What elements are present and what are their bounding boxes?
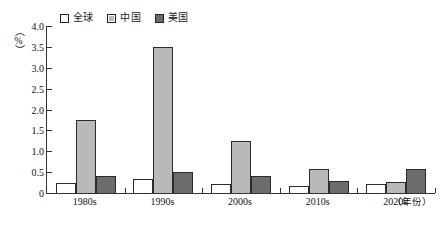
bar-2020s-美国 bbox=[406, 169, 426, 193]
x-tick bbox=[202, 188, 203, 193]
bar-2010s-全球 bbox=[289, 186, 309, 194]
y-tick-label: 3.0 bbox=[32, 63, 45, 74]
bar-group-2010s bbox=[280, 26, 358, 193]
bar-1980s-中国 bbox=[76, 120, 96, 193]
y-tick-label: 0 bbox=[39, 188, 44, 199]
x-tick bbox=[280, 188, 281, 193]
bar-chart: 全球 中国 美国 （%） 4.03.53.02.52.01.51.00.50 1… bbox=[0, 0, 446, 228]
x-axis-label-1990s: 1990s bbox=[124, 196, 202, 210]
legend-label-global: 全球 bbox=[73, 13, 93, 23]
x-axis-labels: 1980s1990s2000s2010s2020s bbox=[46, 196, 434, 210]
legend-entry-global: 全球 bbox=[60, 13, 93, 23]
bar-group-2000s bbox=[202, 26, 280, 193]
bar-2000s-全球 bbox=[211, 184, 231, 193]
legend-swatch-usa bbox=[155, 14, 164, 23]
bar-group-1980s bbox=[47, 26, 125, 193]
y-tick-label: 2.5 bbox=[32, 84, 45, 95]
legend-swatch-global bbox=[60, 14, 69, 23]
y-tick-label: 2.0 bbox=[32, 105, 45, 116]
bar-1990s-美国 bbox=[173, 172, 193, 193]
bar-1980s-全球 bbox=[56, 183, 76, 193]
y-tick-label: 0.5 bbox=[32, 167, 45, 178]
chart-legend: 全球 中国 美国 bbox=[60, 11, 188, 25]
bar-2020s-中国 bbox=[386, 182, 406, 193]
bar-2010s-美国 bbox=[329, 181, 349, 193]
y-tick-label: 1.0 bbox=[32, 146, 45, 157]
bar-2010s-中国 bbox=[309, 169, 329, 193]
bar-groups bbox=[47, 26, 435, 193]
x-axis-label-1980s: 1980s bbox=[46, 196, 124, 210]
bar-1990s-中国 bbox=[153, 47, 173, 193]
legend-label-usa: 美国 bbox=[168, 13, 188, 23]
y-tick-label: 3.5 bbox=[32, 42, 45, 53]
x-tick bbox=[357, 188, 358, 193]
bar-2000s-美国 bbox=[251, 176, 271, 193]
y-tick: 0 bbox=[47, 193, 52, 194]
legend-label-china: 中国 bbox=[120, 13, 140, 23]
legend-entry-china: 中国 bbox=[107, 13, 140, 23]
y-tick-label: 4.0 bbox=[32, 21, 45, 32]
x-tick bbox=[125, 188, 126, 193]
legend-swatch-china bbox=[107, 14, 116, 23]
x-tick bbox=[435, 188, 436, 193]
x-axis-title: （年份） bbox=[392, 196, 432, 208]
bar-2020s-全球 bbox=[366, 184, 386, 193]
bar-group-2020s bbox=[357, 26, 435, 193]
plot-area: 4.03.53.02.52.01.51.00.50 bbox=[46, 26, 435, 194]
x-axis-label-2010s: 2010s bbox=[279, 196, 357, 210]
y-axis-title: （%） bbox=[4, 26, 26, 66]
y-tick-label: 1.5 bbox=[32, 125, 45, 136]
bar-1980s-美国 bbox=[96, 176, 116, 193]
bar-2000s-中国 bbox=[231, 141, 251, 193]
bar-1990s-全球 bbox=[133, 179, 153, 193]
x-axis-label-2000s: 2000s bbox=[201, 196, 279, 210]
legend-entry-usa: 美国 bbox=[155, 13, 188, 23]
bar-group-1990s bbox=[125, 26, 203, 193]
